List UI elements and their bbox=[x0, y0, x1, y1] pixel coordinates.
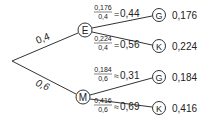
prob-label-e: 0,4 bbox=[34, 30, 51, 46]
prob-label-m: 0,6 bbox=[34, 77, 52, 93]
joint-prob: 0,184 bbox=[172, 72, 197, 83]
fraction-denominator: 0,4 bbox=[98, 13, 108, 20]
conditional-prob: 0,69 bbox=[120, 101, 140, 112]
svg-text:E: E bbox=[82, 25, 89, 36]
fraction-denominator: 0,4 bbox=[98, 44, 108, 51]
relation: = bbox=[114, 9, 119, 19]
svg-text:K: K bbox=[156, 104, 162, 114]
probability-tree: 0,4 0,6 E M 0,176 0,4 = 0,44 G 0,176 0,2… bbox=[0, 0, 206, 126]
leaf-m-g: 0,184 0,6 ≈ 0,31 G 0,184 bbox=[94, 66, 197, 84]
node-e: E bbox=[78, 23, 92, 37]
conditional-prob: 0,44 bbox=[120, 8, 140, 19]
svg-text:M: M bbox=[79, 92, 87, 103]
fraction-denominator: 0,6 bbox=[98, 75, 108, 82]
joint-prob: 0,224 bbox=[172, 41, 197, 52]
node-m: M bbox=[76, 90, 90, 104]
joint-prob: 0,416 bbox=[172, 103, 197, 114]
svg-text:G: G bbox=[155, 73, 162, 83]
fraction-denominator: 0,6 bbox=[98, 106, 108, 113]
svg-text:G: G bbox=[155, 11, 162, 21]
fraction-numerator: 0,184 bbox=[94, 66, 112, 73]
relation: ≈ bbox=[114, 102, 119, 112]
conditional-prob: 0,56 bbox=[120, 39, 140, 50]
fraction-numerator: 0,176 bbox=[94, 4, 112, 11]
svg-text:K: K bbox=[156, 42, 162, 52]
leaf-e-g: 0,176 0,4 = 0,44 G 0,176 bbox=[94, 4, 197, 22]
fraction-numerator: 0,416 bbox=[94, 97, 112, 104]
joint-prob: 0,176 bbox=[172, 10, 197, 21]
relation: ≈ bbox=[114, 71, 119, 81]
relation: = bbox=[114, 40, 119, 50]
conditional-prob: 0,31 bbox=[120, 70, 140, 81]
fraction-numerator: 0,224 bbox=[94, 35, 112, 42]
